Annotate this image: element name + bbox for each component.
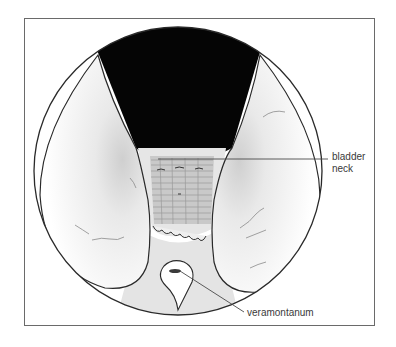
veramontanum-label: veramontanum	[247, 307, 314, 319]
scope-field	[30, 20, 330, 320]
illustration: bladder neck veramontanum	[0, 0, 396, 347]
bladder-neck-label-line2: neck	[332, 163, 353, 175]
bladder-neck-label-line1: bladder	[332, 151, 365, 163]
